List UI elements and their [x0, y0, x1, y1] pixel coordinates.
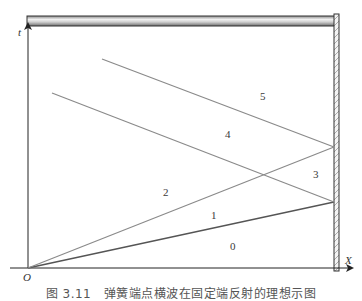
figure-caption: 图 3.11 弹簧端点横波在固定端反射的理想示图 — [0, 284, 362, 301]
region-label-0: 0 — [230, 240, 236, 252]
reflected-line-upper — [102, 59, 334, 147]
incident-line-lower — [28, 202, 334, 268]
region-label-2: 2 — [163, 186, 169, 198]
incident-line-upper — [28, 147, 334, 268]
axes: t X O — [10, 24, 353, 283]
region-label-3: 3 — [313, 168, 319, 180]
region-labels: 0 1 2 3 4 5 — [163, 90, 319, 252]
x-axis-label: X — [344, 254, 353, 266]
region-label-5: 5 — [260, 90, 266, 102]
y-axis-label: t — [18, 26, 22, 38]
wavefront-lines — [28, 59, 334, 268]
fixed-wall — [334, 14, 339, 271]
rod-bar — [27, 16, 335, 26]
region-label-4: 4 — [225, 128, 231, 140]
origin-label: O — [23, 271, 31, 283]
reflected-line-lower — [52, 93, 334, 202]
region-label-1: 1 — [211, 209, 217, 221]
